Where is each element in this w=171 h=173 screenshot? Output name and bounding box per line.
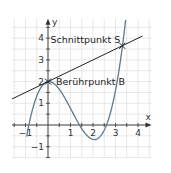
annotation-label: Berührpunkt B <box>56 76 125 87</box>
y-axis-label: y <box>52 17 58 27</box>
y-tick-label: 3 <box>38 55 44 65</box>
x-tick-label: −1 <box>19 128 32 138</box>
x-tick-label: 1 <box>68 128 74 138</box>
y-tick-label: 4 <box>38 33 44 43</box>
x-tick-label: 3 <box>113 128 119 138</box>
annotation-label: Schnittpunkt S <box>51 34 121 45</box>
y-axis-arrow-icon <box>46 19 51 25</box>
y-tick-label: 1 <box>38 98 44 108</box>
y-tick-label: −1 <box>31 142 44 152</box>
chart: −11234−11234 x y Berührpunkt BSchnittpun… <box>0 0 171 173</box>
x-tick-label: 2 <box>90 128 96 138</box>
x-axis-label: x <box>146 112 152 122</box>
x-tick-label: 4 <box>135 128 141 138</box>
x-axis-arrow-icon <box>146 123 152 128</box>
